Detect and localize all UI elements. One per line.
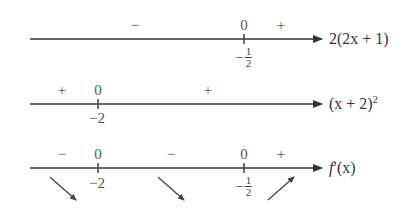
tick-label-neg-2: −2 <box>89 111 105 126</box>
row-label-x-plus-2-squared: (x + 2)2 <box>329 95 378 112</box>
increasing-arrow-icon <box>268 177 294 200</box>
sign-minus: − <box>58 147 66 162</box>
sign-minus: − <box>131 18 139 33</box>
row-label-2-2x-plus-1: 2(2x + 1) <box>329 31 389 47</box>
sign-plus: + <box>58 83 66 98</box>
sign-plus: + <box>204 83 212 98</box>
axis-row-2 <box>30 99 322 109</box>
axis-row-1 <box>30 34 322 44</box>
axis-row-3 <box>30 163 322 173</box>
zero-marker: 0 <box>94 83 102 98</box>
decreasing-arrow-icon <box>158 177 184 200</box>
tick-label-neg-half: − 12 <box>236 175 252 198</box>
zero-marker: 0 <box>240 147 248 162</box>
sign-plus: + <box>277 147 285 162</box>
row-label-f-prime-x: f′(x) <box>329 160 356 176</box>
sign-minus: − <box>167 147 175 162</box>
decreasing-arrow-icon <box>50 177 76 200</box>
zero-marker: 0 <box>94 147 102 162</box>
zero-marker: 0 <box>240 18 248 33</box>
sign-plus: + <box>277 18 285 33</box>
tick-label-neg-2: −2 <box>89 176 105 191</box>
tick-label-neg-half: − 12 <box>236 46 252 69</box>
